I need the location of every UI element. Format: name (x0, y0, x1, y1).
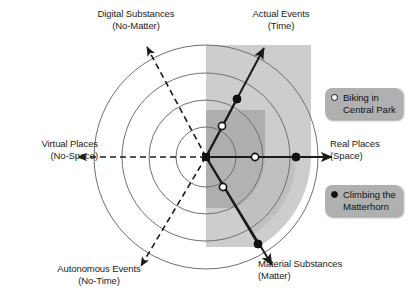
axis-label-material-substances: Material Substances (Matter) (258, 258, 414, 281)
axis-label-actual-events: Actual Events (Time) (232, 8, 330, 31)
axis-label-actual-events-line2: (Time) (232, 20, 330, 32)
axis-label-material-substances-line2: (Matter) (258, 270, 414, 282)
axis-label-real-places-line2: (Space) (330, 150, 416, 162)
axis-label-virtual-places-line2: (No-Space) (6, 150, 98, 162)
point-climbing-time (233, 95, 241, 103)
axis-label-digital-substances-line2: (No-Matter) (76, 20, 196, 32)
axis-label-autonomous-events-line1: Autonomous Events (57, 263, 140, 274)
filled-circle-icon (331, 191, 338, 198)
point-biking-matter (219, 183, 226, 190)
axis-label-real-places-line1: Real Places (330, 138, 380, 149)
figure-canvas: Digital Substances (No-Matter) Actual Ev… (0, 0, 417, 305)
axis-label-virtual-places-line1: Virtual Places (41, 138, 98, 149)
axis-label-autonomous-events-line2: (No-Time) (32, 275, 166, 287)
legend-item-biking: Biking in Central Park (325, 88, 402, 119)
legend-biking-text: Biking in Central Park (343, 92, 396, 115)
axis-label-actual-events-line1: Actual Events (253, 8, 310, 19)
legend-climbing-line2: Matterhorn (343, 201, 396, 213)
axis-digital-substances (147, 47, 206, 157)
open-circle-icon (331, 94, 338, 101)
legend-climbing-line1: Climbing the (343, 189, 396, 200)
point-biking-space (251, 153, 258, 160)
legend-climbing-text: Climbing the Matterhorn (343, 189, 396, 212)
axis-label-virtual-places: Virtual Places (No-Space) (6, 138, 98, 161)
axis-label-digital-substances-line1: Digital Substances (98, 8, 175, 19)
axis-label-real-places: Real Places (Space) (330, 138, 416, 161)
point-biking-time (218, 122, 225, 129)
point-climbing-space (292, 153, 300, 161)
legend-item-climbing: Climbing the Matterhorn (325, 185, 402, 216)
legend-biking-line1: Biking in (343, 92, 379, 103)
axis-autonomous-events (141, 157, 206, 266)
axis-label-autonomous-events: Autonomous Events (No-Time) (32, 263, 166, 286)
origin-marker (202, 153, 210, 161)
legend-biking-line2: Central Park (343, 104, 396, 116)
axis-label-digital-substances: Digital Substances (No-Matter) (76, 8, 196, 31)
shaded-regions (206, 43, 311, 247)
point-climbing-matter (254, 240, 262, 248)
axis-label-material-substances-line1: Material Substances (258, 258, 342, 269)
